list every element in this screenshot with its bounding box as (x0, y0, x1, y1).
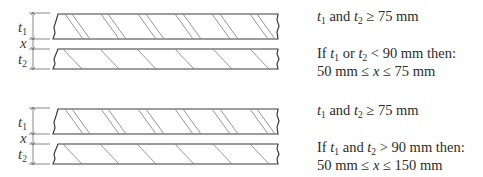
case-1-line-1: t1 and t2 ≥ 75 mm (317, 8, 419, 26)
label-t2: t2 (18, 146, 27, 164)
slab-t1 (53, 14, 279, 39)
case-2-rules: t1 and t2 ≥ 75 mm If t1 and t2 > 90 mm t… (317, 102, 465, 173)
case-1-diagram: t1 x t2 (18, 12, 279, 70)
dimension-line (29, 107, 50, 165)
case-1-line-2: If t1 or t2 < 90 mm then: (317, 45, 456, 63)
dimension-line (29, 12, 50, 70)
case-2-line-3: 50 mm ≤ x ≤ 150 mm (317, 157, 443, 173)
slab-t2 (53, 144, 279, 164)
label-x: x (19, 35, 27, 51)
case-1-rules: t1 and t2 ≥ 75 mm If t1 or t2 < 90 mm th… (317, 8, 456, 79)
case-2-line-2: If t1 and t2 > 90 mm then: (317, 139, 465, 157)
label-x: x (19, 130, 27, 146)
case-1-line-3: 50 mm ≤ x ≤ 75 mm (317, 63, 436, 79)
slab-t2 (53, 49, 279, 69)
slab-t1 (53, 109, 279, 134)
case-2-line-1: t1 and t2 ≥ 75 mm (317, 102, 419, 120)
case-2-diagram: t1 x t2 (18, 107, 279, 165)
label-t2: t2 (18, 51, 27, 69)
slab-spacing-figure: t1 x t2 (0, 0, 483, 177)
